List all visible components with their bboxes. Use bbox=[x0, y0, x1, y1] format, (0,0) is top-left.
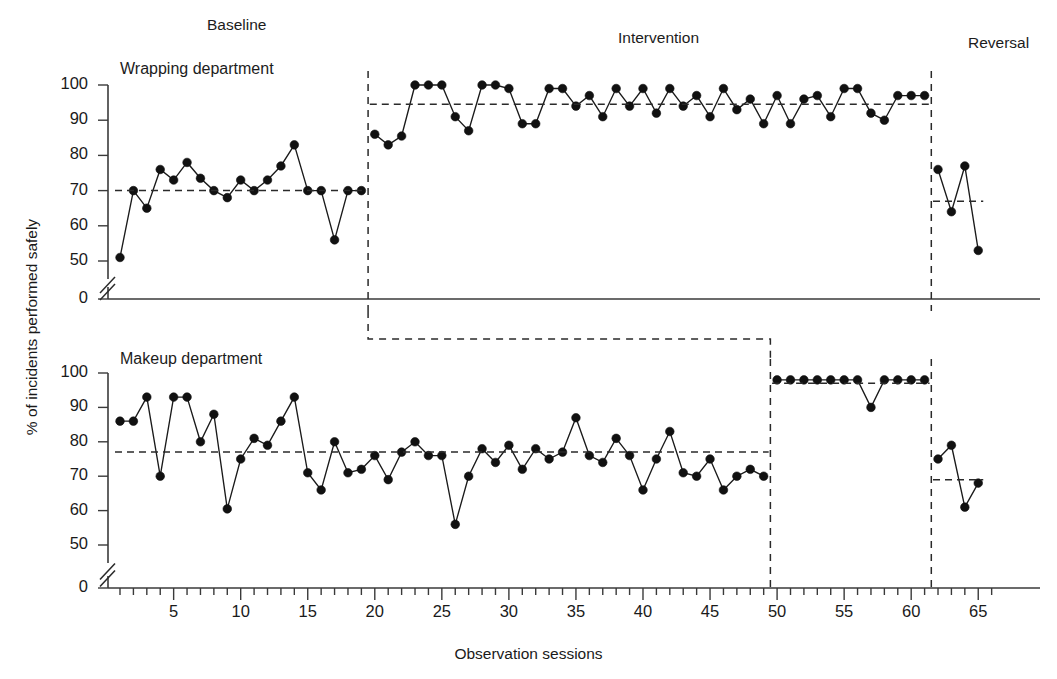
plot-canvas bbox=[0, 0, 1057, 679]
figure-root: Baseline Intervention Reversal Wrapping … bbox=[0, 0, 1057, 679]
